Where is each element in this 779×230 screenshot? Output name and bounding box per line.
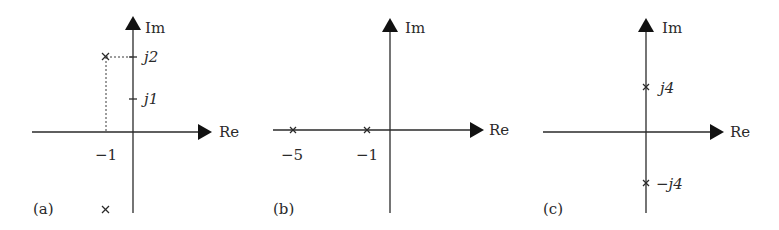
tick-label-negj4: −j4 (656, 175, 683, 193)
tick-label-neg1: −1 (95, 146, 117, 164)
real-axis-label: Re (730, 123, 750, 141)
pole-marker-icon (102, 206, 109, 213)
imag-axis-arrow-icon (382, 18, 398, 32)
imag-axis-label: Im (405, 19, 425, 37)
tick-label-j2: j2 (141, 48, 158, 66)
real-axis-arrow-icon (710, 124, 724, 140)
imag-axis-arrow-icon (125, 16, 141, 30)
tick-label-j1: j1 (141, 90, 158, 108)
panel-c: Im Re j4 −j4 (c) (543, 18, 750, 218)
imag-axis-arrow-icon (638, 18, 654, 32)
tick-label-j4: j4 (657, 79, 674, 97)
panel-a: Im Re j2 j1 −1 (a) (32, 16, 239, 218)
panel-label: (a) (33, 200, 54, 218)
pole-diagrams-figure: Im Re j2 j1 −1 (a) Im Re (0, 0, 779, 230)
panel-b: Im Re −5 −1 (b) (273, 18, 509, 218)
panel-label: (b) (273, 200, 294, 218)
real-axis-arrow-icon (470, 122, 484, 138)
panel-label: (c) (543, 200, 563, 218)
imag-axis-label: Im (145, 19, 165, 37)
real-axis-label: Re (219, 123, 239, 141)
imag-axis-label: Im (662, 19, 682, 37)
real-axis-arrow-icon (198, 124, 212, 140)
tick-label-neg5: −5 (281, 146, 303, 164)
tick-label-neg1: −1 (356, 146, 378, 164)
real-axis-label: Re (489, 121, 509, 139)
